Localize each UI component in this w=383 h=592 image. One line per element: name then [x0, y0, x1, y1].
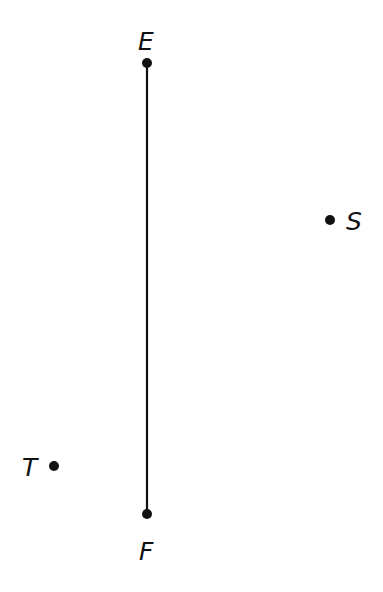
label-s: S — [346, 207, 362, 236]
label-e: E — [138, 27, 154, 56]
label-f: F — [139, 537, 154, 566]
point-t — [49, 461, 59, 471]
point-f — [142, 509, 152, 519]
geometry-diagram: E F S T — [0, 0, 383, 592]
label-t: T — [22, 453, 39, 482]
point-e — [142, 58, 152, 68]
point-s — [325, 215, 335, 225]
